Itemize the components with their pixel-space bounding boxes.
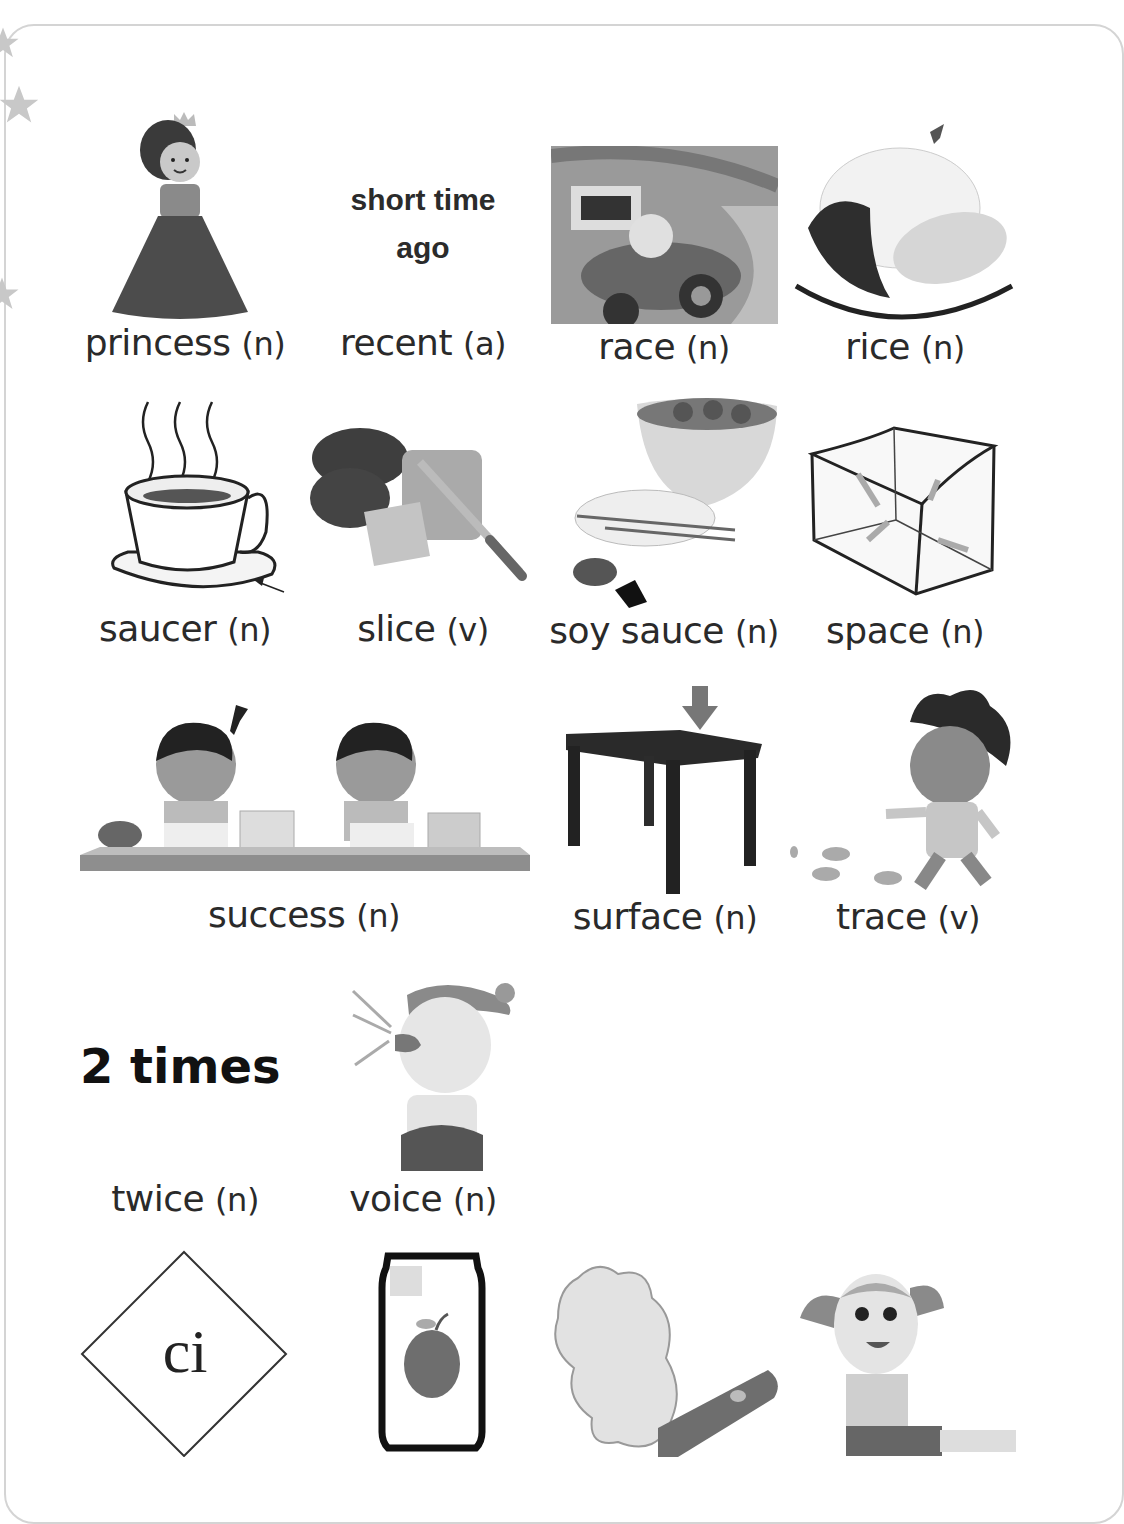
vocab-word: saucer (n): [92, 608, 278, 649]
vocab-word: surface (n): [562, 896, 768, 937]
vocab-word: slice (v): [330, 608, 516, 649]
definition-text: 2 times: [80, 1038, 290, 1094]
table-illustration: [564, 686, 764, 898]
vocab-word: twice (n): [100, 1178, 270, 1219]
vocab-word: success (n): [200, 894, 408, 935]
boy-footprints-illustration: [790, 686, 1020, 898]
star-icon: [0, 276, 20, 312]
bread-slicing-illustration: [310, 422, 538, 590]
soda-can-illustration: [378, 1252, 486, 1457]
star-icon: [0, 26, 20, 60]
definition-text: short time ago: [330, 176, 516, 272]
race-car-illustration: [551, 146, 778, 324]
curry-rice-illustration: [790, 118, 1020, 323]
vocab-word: trace (v): [820, 896, 996, 937]
soy-sauce-illustration: [555, 396, 781, 608]
vocab-word: soy sauce (n): [548, 610, 780, 651]
empty-box-illustration: [808, 410, 1002, 600]
star-icon: [0, 84, 40, 126]
kids-baking-illustration: [80, 705, 530, 875]
vocab-word: voice (n): [340, 1178, 506, 1219]
girl-shouting-illustration: [345, 975, 535, 1181]
princess-illustration: [100, 112, 260, 320]
vocab-word: race (n): [556, 326, 772, 367]
vocab-word: rice (n): [800, 326, 1010, 367]
diamond-letters: ci: [120, 1316, 250, 1387]
girl-sitting-illustration: [790, 1258, 1020, 1457]
cannon-smoke-illustration: [548, 1258, 780, 1457]
vocab-word: recent (a): [330, 322, 516, 363]
vocab-word: princess (n): [82, 322, 288, 363]
cup-and-saucer-illustration: [108, 392, 288, 602]
vocab-word: space (n): [810, 610, 1000, 651]
